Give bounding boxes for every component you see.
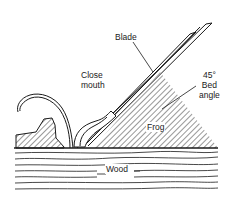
label-close-mouth: Close mouth (81, 70, 105, 90)
label-close-mouth-line1: Close (81, 70, 105, 80)
label-bed-angle-line2: Bed (199, 80, 220, 90)
label-blade: Blade (115, 32, 137, 42)
label-bed-angle: 45° Bed angle (199, 70, 220, 100)
sole-front (16, 118, 64, 148)
label-frog: Frog (146, 122, 165, 132)
label-bed-angle-line3: angle (199, 90, 220, 100)
label-wood: Wood (105, 164, 129, 174)
label-close-mouth-line2: mouth (81, 80, 105, 90)
label-bed-angle-degrees: 45° (199, 70, 220, 80)
